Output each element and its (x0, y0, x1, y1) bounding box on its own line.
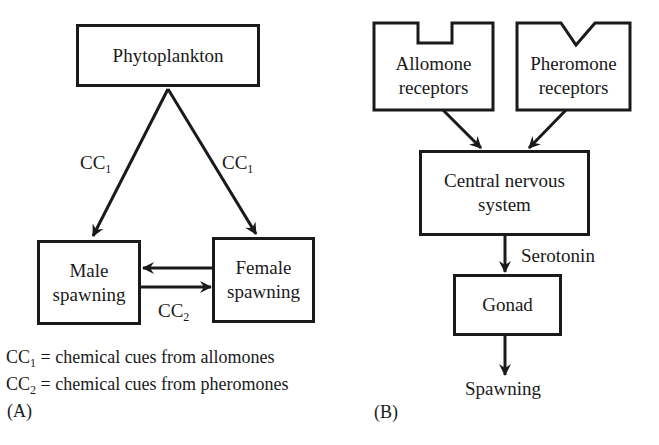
edge-label-serotonin: Serotonin (521, 245, 595, 267)
node-phytoplankton-label: Phytoplankton (113, 44, 224, 68)
legend-item-cc2: CC2 = chemical cues from pheromones (6, 373, 289, 401)
node-allomone-receptors: Allomone receptors (374, 52, 493, 100)
edge-label-cc1-right: CC1 (222, 152, 253, 180)
diagram-canvas: Phytoplankton CC1 CC1 Male spawning Fema… (0, 0, 659, 445)
node-gonad: Gonad (453, 274, 562, 336)
edge-label-cc2: CC2 (158, 300, 189, 328)
node-pheromone-receptors: Pheromone receptors (517, 52, 630, 100)
node-spawning-label: Spawning (465, 378, 541, 400)
legend-item-cc1: CC1 = chemical cues from allomones (6, 346, 275, 374)
arrow-allomone-to-cns (443, 110, 481, 148)
node-phytoplankton: Phytoplankton (76, 24, 260, 87)
node-female-spawning: Female spawning (212, 237, 315, 323)
node-central-nervous-system: Central nervous system (419, 150, 590, 236)
panel-label-b: (B) (374, 401, 398, 423)
node-male-spawning: Male spawning (37, 240, 141, 325)
panel-label-a: (A) (7, 400, 32, 422)
arrow-pheromone-to-cns (529, 110, 566, 148)
edge-label-cc1-left: CC1 (80, 152, 111, 180)
